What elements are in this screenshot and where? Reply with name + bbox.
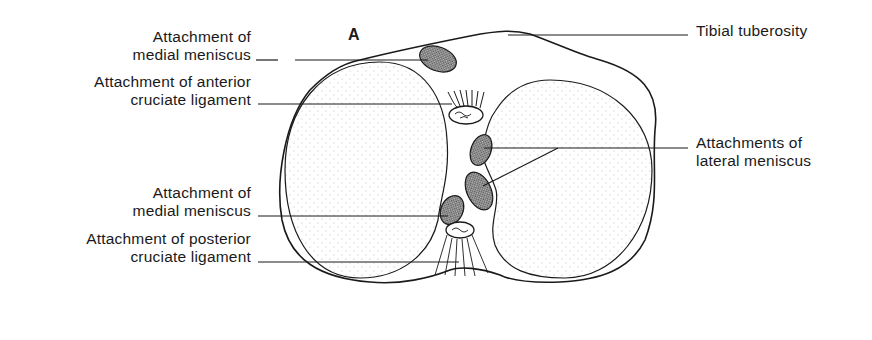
label-line: Attachment of <box>133 28 251 46</box>
label-line: Attachment of anterior <box>94 73 251 91</box>
label-medial-meniscus-anterior: Attachment of medial meniscus <box>133 28 251 64</box>
label-line: Attachment of posterior <box>86 230 251 248</box>
label-line: Attachments of <box>696 134 811 152</box>
label-acl: Attachment of anterior cruciate ligament <box>94 73 251 109</box>
label-tibial-tuberosity: Tibial tuberosity <box>696 22 807 40</box>
label-line: cruciate ligament <box>86 248 251 266</box>
label-line: cruciate ligament <box>94 91 251 109</box>
label-line: medial meniscus <box>133 202 251 220</box>
medial-condyle <box>285 62 448 278</box>
label-pcl: Attachment of posterior cruciate ligamen… <box>86 230 251 266</box>
label-line: Attachment of <box>133 184 251 202</box>
panel-letter: A <box>348 26 360 44</box>
label-line: medial meniscus <box>133 46 251 64</box>
label-medial-meniscus-posterior: Attachment of medial meniscus <box>133 184 251 220</box>
label-lateral-meniscus: Attachments of lateral meniscus <box>696 134 811 170</box>
label-line: lateral meniscus <box>696 152 811 170</box>
lateral-condyle <box>482 80 652 278</box>
tibial-plateau-drawing <box>0 0 872 340</box>
label-line: Tibial tuberosity <box>696 22 807 40</box>
